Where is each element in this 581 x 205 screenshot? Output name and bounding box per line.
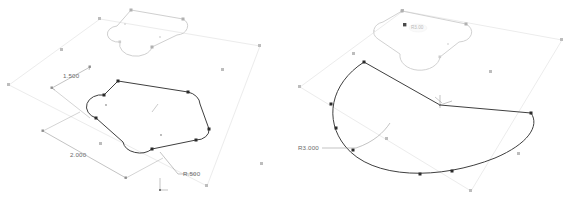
sector-outline[interactable] (333, 62, 534, 173)
profile-handle[interactable] (119, 41, 122, 44)
witness-line (43, 112, 80, 131)
profile-handle[interactable] (117, 80, 120, 83)
dimension-value-r500[interactable]: R.500 (183, 170, 201, 177)
dimension-handle[interactable] (42, 130, 44, 132)
profile-handle[interactable] (151, 46, 154, 49)
plane-boundary[interactable] (300, 11, 562, 191)
cad-viewport: 1.500 2.000 R.500 (0, 0, 581, 205)
left-sketch-origin-marker[interactable] (159, 178, 168, 191)
constraint-marker (160, 134, 162, 136)
profile-handle[interactable] (195, 139, 198, 142)
dimension-value-r3000[interactable]: R3.000 (298, 144, 319, 151)
dimension-value-2000[interactable]: 2.000 (70, 151, 87, 158)
plane-handle[interactable] (258, 44, 261, 47)
constraint-marker (373, 30, 375, 32)
plane-handle[interactable] (98, 17, 101, 20)
left-radius-dimension[interactable]: R.500 (160, 152, 201, 177)
profile-handle[interactable] (95, 117, 98, 120)
right-active-sector-profile[interactable] (330, 61, 534, 176)
left-upper-rounded-profile[interactable] (107, 9, 187, 57)
constraint-marker (105, 104, 107, 106)
left-active-rounded-profile[interactable] (86, 80, 210, 153)
handle-tooltip-label: R3.00 (411, 25, 424, 30)
left-reference-plane[interactable] (7, 17, 263, 187)
plane-handle[interactable] (7, 83, 10, 86)
plane-handle[interactable] (489, 70, 492, 73)
plane-handle[interactable] (469, 189, 472, 192)
constraint-marker (159, 36, 161, 38)
dimension-value-1500[interactable]: 1.500 (63, 72, 80, 79)
constraint-marker (447, 43, 449, 45)
profile-outline[interactable] (374, 11, 472, 70)
profile-handle[interactable] (208, 128, 211, 131)
origin-point[interactable] (159, 189, 161, 191)
profile-handle[interactable] (103, 94, 106, 97)
constraint-tick (435, 97, 442, 103)
constraint-tick (152, 104, 158, 112)
profile-handle[interactable] (151, 148, 154, 151)
profile-outline[interactable] (86, 81, 209, 153)
plane-handle[interactable] (221, 68, 224, 71)
witness-line (126, 158, 163, 178)
sector-handle[interactable] (352, 149, 355, 152)
right-view[interactable]: R3.00 (298, 9, 563, 192)
sector-handle[interactable] (530, 112, 533, 115)
sector-handle[interactable] (335, 127, 338, 130)
origin-point[interactable] (439, 104, 441, 106)
profile-handle[interactable] (187, 91, 190, 94)
plane-handle[interactable] (60, 48, 63, 51)
selected-handle[interactable] (403, 23, 406, 26)
right-reference-plane[interactable] (298, 9, 563, 192)
profile-handle[interactable] (182, 18, 185, 21)
plane-handle[interactable] (99, 142, 102, 145)
plane-handle[interactable] (352, 52, 355, 55)
plane-handle[interactable] (517, 152, 520, 155)
dimension-handle[interactable] (51, 87, 53, 89)
sector-handle[interactable] (451, 170, 454, 173)
left-view[interactable]: 1.500 2.000 R.500 (7, 9, 263, 192)
witness-line (52, 88, 90, 118)
sector-handle[interactable] (419, 173, 422, 176)
left-width-dimension[interactable]: 1.500 (51, 66, 91, 119)
plane-handle[interactable] (298, 85, 301, 88)
plane-handle[interactable] (260, 162, 263, 165)
profile-outline[interactable] (107, 10, 187, 56)
left-length-dimension[interactable]: 2.000 (42, 112, 164, 179)
cad-scene: 1.500 2.000 R.500 (0, 0, 581, 205)
right-upper-rounded-profile[interactable]: R3.00 (373, 10, 472, 71)
right-radius-dimension[interactable]: R3.000 (298, 123, 390, 151)
sector-handle[interactable] (330, 103, 333, 106)
dimension-handle[interactable] (89, 66, 91, 68)
profile-handle[interactable] (439, 56, 442, 59)
constraint-marker (124, 23, 126, 25)
plane-handle[interactable] (205, 184, 208, 187)
sector-handle[interactable] (363, 61, 366, 64)
profile-handle[interactable] (130, 9, 133, 12)
profile-handle[interactable] (465, 23, 468, 26)
plane-handle[interactable] (385, 137, 388, 140)
plane-boundary[interactable] (9, 19, 260, 186)
dimension-handle[interactable] (125, 177, 127, 179)
profile-handle[interactable] (401, 10, 404, 13)
plane-handle[interactable] (560, 38, 563, 41)
